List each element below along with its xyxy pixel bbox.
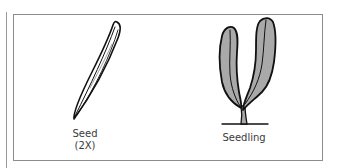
seed-caption: Seed (2X)	[62, 128, 108, 152]
seedling-caption: Seedling	[214, 132, 274, 144]
seedling-illustration	[220, 18, 276, 124]
seed-caption-line2: (2X)	[62, 140, 108, 152]
seed-caption-line1: Seed	[62, 128, 108, 140]
seed-illustration	[74, 22, 120, 119]
figure-illustrations	[0, 0, 338, 168]
